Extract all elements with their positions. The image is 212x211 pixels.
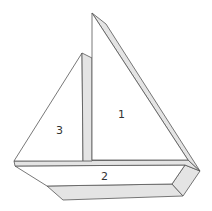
hull-bottom-edge <box>47 184 183 200</box>
label-piece-2: 2 <box>101 170 108 183</box>
jib-sail <box>14 53 83 161</box>
mast-strip <box>82 53 92 161</box>
label-piece-3: 3 <box>56 124 63 137</box>
main-sail <box>92 13 188 160</box>
label-piece-1: 1 <box>118 108 125 121</box>
sailboat-diagram: 1 3 2 <box>0 0 212 211</box>
hull-face <box>15 165 185 186</box>
